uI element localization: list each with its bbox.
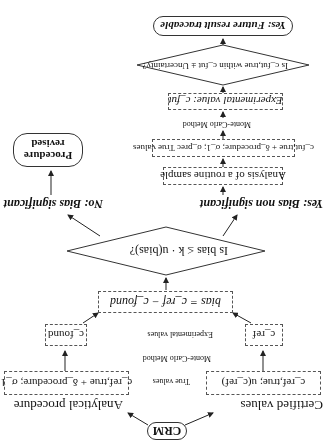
c-ref-box: c_ref — [245, 324, 283, 346]
crm-label: CRM — [153, 424, 182, 439]
procedure-box: c_ref,true + δ_procedure; σ_1 — [4, 371, 129, 395]
bias-box: bias = c_ref − c_found — [98, 291, 233, 313]
analysis-box: Analysis of a routine sample — [163, 167, 283, 185]
yes-bias-non-significant: Yes: Bias non significant — [200, 196, 323, 211]
crm-node: CRM — [147, 422, 187, 440]
c-found-box: c_found — [45, 324, 87, 346]
procedure-revised-line1: Procedure — [24, 150, 72, 162]
procedure-revised-line2: revised — [31, 138, 64, 150]
true-values-label: True values — [153, 377, 190, 386]
future-result-traceable-node: Yes: Future result traceable — [153, 16, 293, 36]
certified-values-title: Certified values — [240, 397, 323, 413]
no-bias-significant: No: Bias significant — [4, 196, 103, 211]
decision-traceable: Is c_fut,true within c_fut ± Uncertainty… — [143, 61, 288, 71]
decision-bias: Is bias ≤ k · u(bias)? — [130, 243, 228, 258]
monte-carlo-label-2: Monte-Carlo Method — [183, 120, 251, 129]
experimental-values-label: Experimental values — [147, 330, 213, 339]
certified-box: c_ref,true; u(c_ref) — [206, 371, 321, 395]
flowchart: CRM Certified values Analytical procedur… — [0, 0, 333, 443]
analytical-procedure-title: Analytical procedure — [14, 397, 123, 413]
monte-carlo-label: Monte-Carlo Method — [143, 354, 211, 363]
true-values-box: c_fut,true + δ_procedure; σ_1; σ_prec Tr… — [152, 139, 295, 157]
future-result-label: Yes: Future result traceable — [160, 20, 286, 32]
procedure-revised-node: Procedure revised — [13, 133, 83, 167]
experimental-value-box: Experimental value: c_fut — [168, 93, 283, 110]
